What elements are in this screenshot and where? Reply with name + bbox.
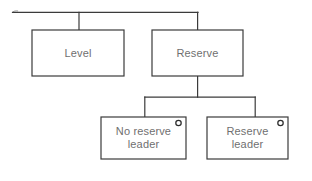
node-reserve[interactable] [152,30,243,76]
node-level[interactable] [32,30,124,76]
diagram-canvas: Level Reserve No reserve leader Reserve … [0,0,312,181]
node-reserve-leader[interactable] [207,117,288,159]
node-no-reserve-leader[interactable] [101,117,186,159]
